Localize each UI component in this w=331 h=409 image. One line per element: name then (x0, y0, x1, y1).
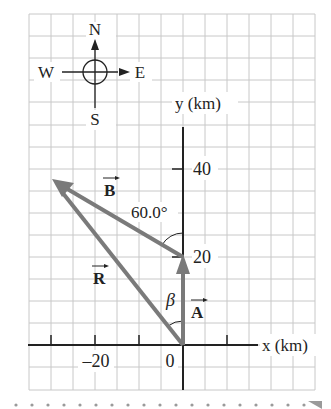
x-axis-label: x (km) (262, 336, 308, 355)
y-axis-label: y (km) (175, 94, 221, 113)
compass-east-label: E (135, 63, 145, 82)
x-tick-minus-20: –20 (82, 351, 110, 371)
x-tick-0: 0 (166, 351, 175, 371)
east-arrow-icon (119, 68, 130, 76)
compass-north-label: N (89, 20, 101, 39)
compass-south-label: S (90, 110, 99, 129)
svg-text:B: B (104, 181, 115, 200)
vector-BR-arrowhead-icon (52, 179, 74, 197)
axes (28, 127, 258, 390)
y-tick-40: 40 (193, 159, 211, 179)
north-arrow-icon (91, 39, 99, 50)
svg-text:R: R (93, 269, 106, 288)
y-tick-20: 20 (193, 247, 211, 267)
angle-label-beta: β (165, 290, 175, 310)
svg-text:A: A (191, 303, 204, 322)
compass-west-label: W (38, 63, 55, 82)
vector-diagram: N W E S y (km) 40 20 –20 0 x (km) (0, 0, 331, 409)
angle-label-60: 60.0° (131, 203, 168, 222)
x-ticks (51, 335, 227, 345)
dotted-divider (14, 401, 322, 409)
